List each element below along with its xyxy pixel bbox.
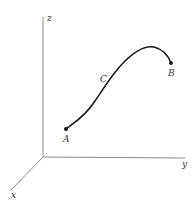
space-curve [66,47,171,129]
x-axis-label: x [11,190,16,200]
point-a-label: A [62,134,70,144]
point-a-marker [64,127,68,131]
y-axis [43,157,185,158]
y-axis-label: y [181,159,188,169]
space-curve-diagram: z y x A B C [0,0,193,206]
point-b-marker [169,61,173,65]
x-axis [11,157,43,190]
axes: z y x [11,13,188,200]
z-axis-label: z [46,13,52,23]
points: A B C [62,61,175,144]
point-b-label: B [167,68,175,78]
curve-c-label: C [100,74,107,84]
